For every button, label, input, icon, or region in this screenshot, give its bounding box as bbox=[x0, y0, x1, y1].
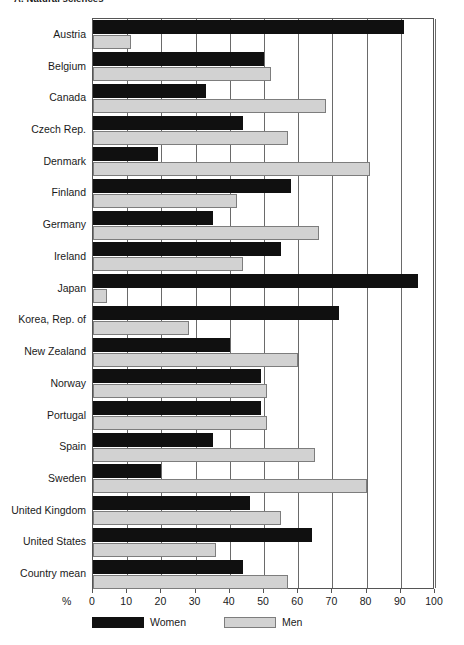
x-axis-unit-label: % bbox=[62, 595, 71, 607]
x-tick-label: 10 bbox=[120, 595, 132, 607]
bar-women bbox=[93, 433, 213, 447]
bar-group bbox=[93, 558, 433, 590]
bar-women bbox=[93, 338, 230, 352]
bar-group bbox=[93, 146, 433, 178]
bar-men bbox=[93, 162, 370, 176]
bar-women bbox=[93, 496, 250, 510]
bar-men bbox=[93, 321, 189, 335]
black-swatch-icon bbox=[92, 617, 144, 628]
category-axis-labels: AustriaBelgiumCanadaCzech Rep.DenmarkFin… bbox=[0, 18, 86, 589]
x-tick-70 bbox=[331, 589, 332, 593]
bar-group bbox=[93, 209, 433, 241]
bar-group bbox=[93, 51, 433, 83]
bar-group bbox=[93, 273, 433, 305]
bar-men bbox=[93, 35, 131, 49]
bar-group bbox=[93, 305, 433, 337]
bar-women bbox=[93, 401, 261, 415]
bar-chart: A. Natural sciences AustriaBelgiumCanada… bbox=[0, 0, 464, 645]
bar-group bbox=[93, 336, 433, 368]
x-tick-100 bbox=[434, 589, 435, 593]
x-tick-40 bbox=[229, 589, 230, 593]
bar-men bbox=[93, 448, 315, 462]
gridline-100 bbox=[435, 19, 436, 588]
category-label: Czech Rep. bbox=[0, 123, 86, 135]
category-label: Portugal bbox=[0, 409, 86, 421]
category-label: Belgium bbox=[0, 60, 86, 72]
bar-women bbox=[93, 306, 339, 320]
bar-group bbox=[93, 400, 433, 432]
x-tick-0 bbox=[92, 589, 93, 593]
bar-women bbox=[93, 20, 404, 34]
bar-gap bbox=[93, 288, 433, 289]
category-label: Austria bbox=[0, 28, 86, 40]
bar-men bbox=[93, 226, 319, 240]
bar-women bbox=[93, 528, 312, 542]
category-label: Ireland bbox=[0, 250, 86, 262]
x-tick-label: 20 bbox=[155, 595, 167, 607]
bar-men bbox=[93, 99, 326, 113]
grey-swatch-icon bbox=[224, 617, 276, 628]
bar-group bbox=[93, 495, 433, 527]
x-tick-label: 100 bbox=[425, 595, 443, 607]
bar-group bbox=[93, 463, 433, 495]
bar-men bbox=[93, 511, 281, 525]
category-label: Denmark bbox=[0, 155, 86, 167]
x-tick-50 bbox=[263, 589, 264, 593]
category-label: Germany bbox=[0, 218, 86, 230]
bar-women bbox=[93, 464, 161, 478]
category-label: Canada bbox=[0, 91, 86, 103]
bar-men bbox=[93, 479, 367, 493]
x-tick-60 bbox=[297, 589, 298, 593]
x-tick-label: 50 bbox=[257, 595, 269, 607]
bar-women bbox=[93, 179, 291, 193]
bar-men bbox=[93, 543, 216, 557]
bar-group bbox=[93, 114, 433, 146]
category-label: Japan bbox=[0, 282, 86, 294]
legend-item-men: Men bbox=[224, 616, 302, 628]
bar-women bbox=[93, 560, 243, 574]
x-axis: 0102030405060708090100 bbox=[92, 589, 434, 611]
category-label: Norway bbox=[0, 377, 86, 389]
category-label: United Kingdom bbox=[0, 504, 86, 516]
bar-men bbox=[93, 67, 271, 81]
bar-group bbox=[93, 527, 433, 559]
x-tick-label: 70 bbox=[326, 595, 338, 607]
bar-group bbox=[93, 368, 433, 400]
plot-area bbox=[92, 18, 434, 589]
legend-label-women: Women bbox=[150, 616, 186, 628]
bar-men bbox=[93, 416, 267, 430]
bar-women bbox=[93, 274, 418, 288]
x-tick-30 bbox=[195, 589, 196, 593]
category-label: New Zealand bbox=[0, 345, 86, 357]
bar-gap bbox=[93, 34, 433, 35]
bar-group bbox=[93, 19, 433, 51]
bar-men bbox=[93, 194, 237, 208]
category-label: United States bbox=[0, 535, 86, 547]
bar-women bbox=[93, 369, 261, 383]
bar-women bbox=[93, 147, 158, 161]
x-tick-label: 60 bbox=[291, 595, 303, 607]
bar-group bbox=[93, 241, 433, 273]
x-tick-90 bbox=[400, 589, 401, 593]
x-tick-20 bbox=[160, 589, 161, 593]
category-label: Korea, Rep. of bbox=[0, 313, 86, 325]
bar-group bbox=[93, 178, 433, 210]
bar-men bbox=[93, 257, 243, 271]
bar-women bbox=[93, 211, 213, 225]
x-tick-label: 80 bbox=[360, 595, 372, 607]
bar-men bbox=[93, 353, 298, 367]
chart-title: A. Natural sciences bbox=[14, 0, 104, 4]
bar-group bbox=[93, 431, 433, 463]
legend-label-men: Men bbox=[282, 616, 302, 628]
bar-men bbox=[93, 131, 288, 145]
bar-men bbox=[93, 384, 267, 398]
category-label: Spain bbox=[0, 440, 86, 452]
bar-men bbox=[93, 575, 288, 589]
x-tick-label: 0 bbox=[89, 595, 95, 607]
bar-men bbox=[93, 289, 107, 303]
category-label: Sweden bbox=[0, 472, 86, 484]
bar-women bbox=[93, 116, 243, 130]
bar-group bbox=[93, 82, 433, 114]
x-tick-80 bbox=[366, 589, 367, 593]
bar-rows bbox=[93, 19, 433, 588]
